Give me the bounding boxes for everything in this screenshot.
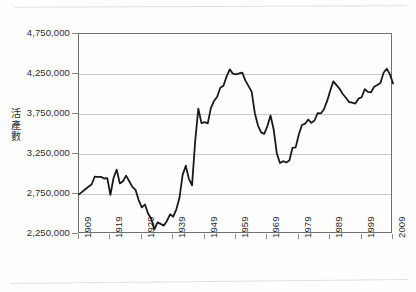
- y-axis-tick-label: 2,250,000: [0, 227, 70, 238]
- x-axis-tick-mark: [235, 234, 236, 239]
- scan-artifact-bottom-line: [10, 279, 408, 284]
- x-axis-tick-mark: [204, 234, 205, 239]
- y-axis-tick-label: 3,750,000: [0, 107, 70, 118]
- y-axis-title-char: 數: [8, 131, 24, 143]
- x-axis-tick-mark: [172, 234, 173, 239]
- series-line-live-births: [79, 69, 393, 230]
- x-axis-tick-mark: [266, 234, 267, 239]
- chart-figure: 活產數 4,750,0004,250,0003,750,0003,250,000…: [0, 0, 416, 292]
- x-axis-tick-mark: [78, 234, 79, 239]
- plot-area: [78, 33, 392, 233]
- x-axis-tick-label: 2009: [396, 216, 407, 238]
- y-axis-tick-label: 4,250,000: [0, 67, 70, 78]
- y-axis-tick-label: 2,750,000: [0, 187, 70, 198]
- y-axis-tick-label: 4,750,000: [0, 27, 70, 38]
- x-axis-tick-mark: [141, 234, 142, 239]
- x-axis-tick-mark: [361, 234, 362, 239]
- x-axis-tick-mark: [329, 234, 330, 239]
- x-axis-tick-mark: [109, 234, 110, 239]
- series-live-births: [79, 34, 393, 234]
- y-axis-title-char: 產: [8, 120, 24, 132]
- scan-artifact-top-line: [14, 5, 406, 8]
- x-axis-tick-mark: [392, 234, 393, 239]
- y-axis-tick-label: 3,250,000: [0, 147, 70, 158]
- x-axis-tick-mark: [298, 234, 299, 239]
